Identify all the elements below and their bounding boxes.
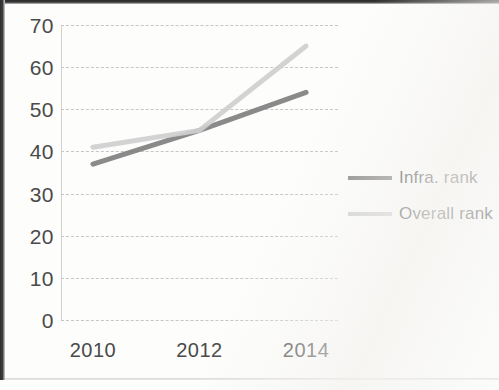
legend-line-swatch (348, 176, 392, 180)
series-lines (61, 25, 338, 320)
chart-legend: Infra. rankOverall rank (348, 160, 498, 232)
x-axis-tick-label: 2014 (283, 340, 330, 360)
scan-edge-bottom (5, 378, 499, 380)
legend-label: Infra. rank (399, 168, 478, 188)
gridline (61, 320, 338, 321)
y-axis-tick-label: 30 (10, 183, 54, 204)
y-axis-tick-label: 10 (10, 267, 54, 288)
y-axis-tick-label: 20 (10, 225, 54, 246)
y-axis-tick-label: 60 (10, 57, 54, 78)
scan-edge-top (0, 0, 499, 4)
chart-screenshot: 706050403020100 201020122014 Infra. rank… (0, 0, 499, 390)
y-axis-tick-label: 0 (10, 310, 54, 331)
legend-item: Infra. rank (348, 160, 498, 196)
x-axis-tick-label: 2010 (70, 340, 117, 360)
y-axis-labels: 706050403020100 (4, 25, 54, 320)
y-axis-tick-label: 70 (10, 15, 54, 36)
y-axis-tick-label: 40 (10, 141, 54, 162)
legend-line-swatch (348, 212, 392, 216)
x-axis-labels: 201020122014 (61, 340, 338, 366)
y-axis-tick-label: 50 (10, 99, 54, 120)
x-axis-tick-label: 2012 (176, 340, 223, 360)
series-line (93, 46, 306, 147)
legend-label: Overall rank (399, 204, 493, 224)
legend-item: Overall rank (348, 196, 498, 232)
plot-area (61, 25, 338, 320)
